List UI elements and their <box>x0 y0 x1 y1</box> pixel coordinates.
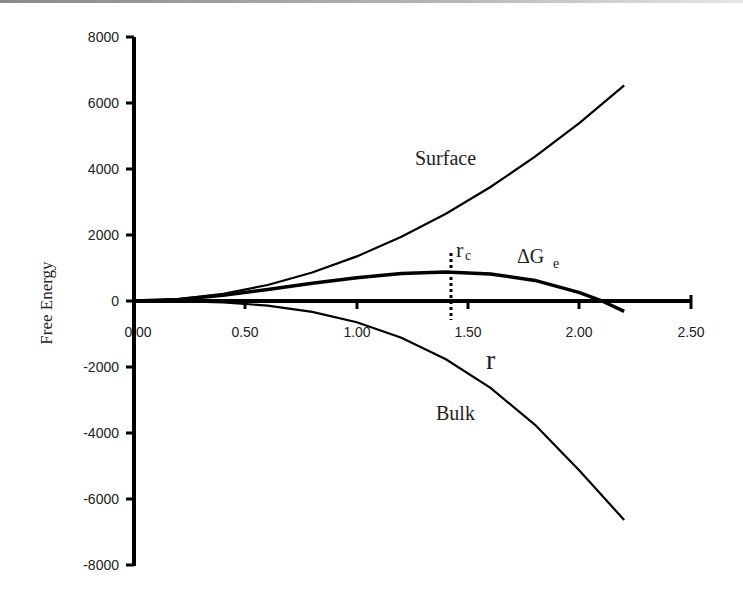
y-tick-labels: 8000 6000 4000 2000 0 -2000 -4000 -6000 … <box>83 29 119 573</box>
svg-text:2000: 2000 <box>88 227 119 243</box>
svg-text:0.50: 0.50 <box>231 324 258 340</box>
delta-g-label: ΔG e <box>517 245 559 271</box>
delta-g-curve <box>134 272 624 311</box>
svg-text:e: e <box>553 256 559 271</box>
x-axis-title: r <box>486 344 496 375</box>
svg-text:0.00: 0.00 <box>124 324 151 340</box>
svg-text:ΔG: ΔG <box>517 245 544 267</box>
free-energy-chart: 8000 6000 4000 2000 0 -2000 -4000 -6000 … <box>0 0 743 607</box>
svg-text:1.50: 1.50 <box>454 324 481 340</box>
svg-text:0: 0 <box>111 293 119 309</box>
svg-text:-2000: -2000 <box>83 359 119 375</box>
surface-curve <box>134 85 624 301</box>
svg-text:c: c <box>465 248 471 263</box>
surface-label: Surface <box>415 147 476 169</box>
bulk-label: Bulk <box>436 402 475 424</box>
svg-text:2.00: 2.00 <box>565 324 592 340</box>
x-tick-labels: 0.00 0.50 1.00 1.50 2.00 2.50 <box>124 324 704 340</box>
svg-text:6000: 6000 <box>88 95 119 111</box>
rc-label: r c <box>456 237 471 263</box>
svg-text:r: r <box>456 237 464 262</box>
y-axis-title: Free Energy <box>37 261 56 345</box>
svg-text:4000: 4000 <box>88 161 119 177</box>
svg-text:2.50: 2.50 <box>677 324 704 340</box>
bulk-curve <box>134 301 624 520</box>
svg-text:-6000: -6000 <box>83 491 119 507</box>
svg-text:8000: 8000 <box>88 29 119 45</box>
svg-text:-4000: -4000 <box>83 425 119 441</box>
svg-text:-8000: -8000 <box>83 557 119 573</box>
